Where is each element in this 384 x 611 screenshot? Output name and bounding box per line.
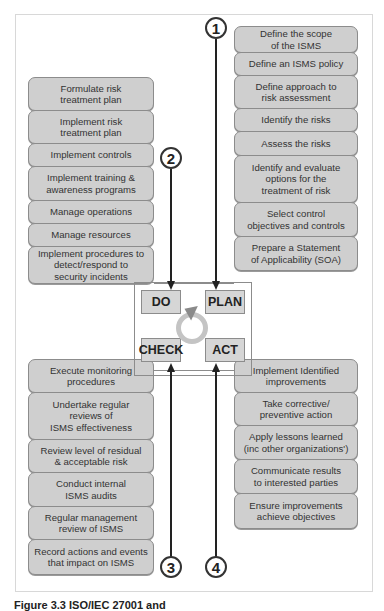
plan-steps-column: Define the scopeof the ISMSDefine an ISM… bbox=[234, 26, 358, 270]
step-text-line: ISMS audits bbox=[56, 490, 126, 502]
step-text-line: objectives and controls bbox=[247, 220, 345, 232]
step-text-line: Assess the risks bbox=[261, 138, 330, 150]
step-text-line: Identify and evaluate bbox=[252, 162, 341, 174]
step-text-line: ISMS effectiveness bbox=[50, 422, 132, 434]
step-text-line: Define approach to bbox=[255, 81, 336, 93]
step-text-line: detect/respond to bbox=[38, 259, 144, 271]
plan-step-box: Define an ISMS policy bbox=[234, 52, 358, 76]
step-text-line: of Applicability (SOA) bbox=[251, 254, 341, 266]
step-text-line: review of ISMS bbox=[45, 523, 137, 535]
step-text-line: Identify the risks bbox=[261, 114, 330, 126]
do-steps-column: Formulate risktreatment planImplement ri… bbox=[28, 77, 154, 283]
step-text-line: that impact on ISMS bbox=[34, 557, 148, 569]
step-text-line: treatment plan bbox=[60, 127, 122, 139]
check-step-box: Review level of residual& acceptable ris… bbox=[28, 439, 154, 473]
step-text-line: of the ISMS bbox=[260, 40, 332, 52]
step-number-4: 4 bbox=[205, 556, 227, 578]
do-step-box: Manage operations bbox=[28, 200, 154, 224]
check-step-box: Regular managementreview of ISMS bbox=[28, 506, 154, 540]
step-text-line: Implement procedures to bbox=[38, 248, 144, 260]
arrowhead-down-2 bbox=[167, 281, 175, 290]
arrowhead-up-4 bbox=[212, 363, 220, 372]
act-step-box: Ensure improvementsachieve objectives bbox=[234, 493, 358, 529]
plan-step-box: Define the scopeof the ISMS bbox=[234, 26, 358, 53]
step-text-line: security incidents bbox=[38, 271, 144, 283]
arrow-line-4 bbox=[215, 371, 217, 565]
step-text-line: & acceptable risk bbox=[41, 456, 142, 468]
arrow-line-2 bbox=[170, 169, 172, 282]
connector-top bbox=[154, 283, 234, 284]
step-number-1: 1 bbox=[205, 17, 227, 39]
check-step-box: Undertake regularreviews ofISMS effectiv… bbox=[28, 392, 154, 440]
step-text-line: preventive action bbox=[260, 409, 333, 421]
phase-plan: PLAN bbox=[205, 290, 245, 314]
plan-step-box: Prepare a Statementof Applicability (SOA… bbox=[234, 236, 358, 271]
step-text-line: achieve objectives bbox=[249, 511, 342, 523]
step-text-line: Take corrective/ bbox=[260, 398, 333, 410]
step-text-line: Apply lessons learned bbox=[244, 431, 349, 443]
step-text-line: Review level of residual bbox=[41, 445, 142, 457]
plan-step-box: Define approach torisk assessment bbox=[234, 75, 358, 109]
plan-step-box: Identify the risks bbox=[234, 108, 358, 132]
step-number-2: 2 bbox=[160, 147, 182, 169]
step-text-line: Formulate risk bbox=[60, 83, 121, 95]
act-step-box: Implement Identifiedimprovements bbox=[234, 359, 358, 393]
step-text-line: improvements bbox=[253, 376, 339, 388]
step-number-3: 3 bbox=[160, 556, 182, 578]
step-text-line: Implement risk bbox=[60, 116, 122, 128]
act-step-box: Communicate resultsto interested parties bbox=[234, 459, 358, 494]
plan-step-box: Select controlobjectives and controls bbox=[234, 202, 358, 237]
step-text-line: Conduct internal bbox=[56, 478, 126, 490]
step-text-line: Undertake regular bbox=[50, 399, 132, 411]
act-step-box: Apply lessons learned(inc other organiza… bbox=[234, 425, 358, 460]
do-step-box: Implement risktreatment plan bbox=[28, 110, 154, 144]
check-step-box: Conduct internalISMS audits bbox=[28, 472, 154, 507]
step-text-line: Record actions and events bbox=[34, 546, 148, 558]
arrowhead-up-3 bbox=[167, 363, 175, 372]
step-text-line: Manage resources bbox=[51, 229, 130, 241]
step-text-line: Ensure improvements bbox=[249, 500, 342, 512]
step-text-line: reviews of bbox=[50, 410, 132, 422]
do-step-box: Implement procedures todetect/respond to… bbox=[28, 246, 154, 284]
step-text-line: procedures bbox=[50, 376, 132, 388]
step-text-line: to interested parties bbox=[251, 477, 341, 489]
plan-step-box: Assess the risks bbox=[234, 131, 358, 156]
do-step-box: Formulate risktreatment plan bbox=[28, 77, 154, 111]
do-step-box: Manage resources bbox=[28, 223, 154, 247]
step-text-line: Implement training & bbox=[46, 172, 136, 184]
act-steps-column: Implement IdentifiedimprovementsTake cor… bbox=[234, 359, 358, 528]
step-text-line: Implement controls bbox=[50, 149, 131, 161]
step-text-line: risk assessment bbox=[255, 92, 336, 104]
step-text-line: Define the scope bbox=[260, 28, 332, 40]
step-text-line: Manage operations bbox=[50, 206, 132, 218]
phase-act: ACT bbox=[205, 338, 245, 362]
step-text-line: Select control bbox=[247, 208, 345, 220]
step-text-line: Communicate results bbox=[251, 465, 341, 477]
connector-bottom bbox=[154, 370, 234, 371]
step-text-line: Define an ISMS policy bbox=[249, 58, 343, 70]
step-text-line: awareness programs bbox=[46, 184, 136, 196]
step-text-line: treatment of risk bbox=[252, 185, 341, 197]
plan-step-box: Identify and evaluateoptions for thetrea… bbox=[234, 155, 358, 203]
step-text-line: Implement Identified bbox=[253, 365, 339, 377]
phase-do: DO bbox=[141, 290, 181, 314]
step-text-line: Regular management bbox=[45, 512, 137, 524]
step-text-line: Prepare a Statement bbox=[251, 242, 341, 254]
step-text-line: Execute monitoring bbox=[50, 365, 132, 377]
arrow-line-1 bbox=[215, 39, 217, 282]
phase-check: CHECK bbox=[141, 338, 181, 362]
step-text-line: treatment plan bbox=[60, 94, 121, 106]
check-step-box: Record actions and eventsthat impact on … bbox=[28, 539, 154, 575]
figure-caption: Figure 3.3 ISO/IEC 27001 and bbox=[14, 599, 166, 611]
check-steps-column: Execute monitoringproceduresUndertake re… bbox=[28, 359, 154, 574]
do-step-box: Implement training &awareness programs bbox=[28, 166, 154, 201]
arrowhead-down-1 bbox=[212, 281, 220, 290]
act-step-box: Take corrective/preventive action bbox=[234, 392, 358, 426]
step-text-line: options for the bbox=[252, 173, 341, 185]
do-step-box: Implement controls bbox=[28, 143, 154, 167]
step-text-line: (inc other organizations') bbox=[244, 443, 349, 455]
arrow-line-3 bbox=[170, 371, 172, 565]
